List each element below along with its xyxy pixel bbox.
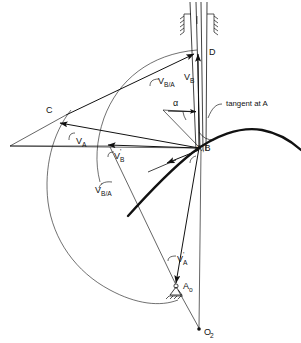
vector-v-b-over-a-prime <box>110 147 177 287</box>
guide-hatch-right <box>207 14 218 35</box>
guide-hatch-left <box>180 14 191 35</box>
vector-label-v-b-prime: V ' B <box>114 148 125 163</box>
svg-text:2: 2 <box>210 332 214 339</box>
svg-text:': ' <box>183 251 184 258</box>
leader-v-a <box>69 133 75 140</box>
leader-v-a-prime <box>168 256 176 261</box>
vector-label-v-b: V B <box>184 72 195 84</box>
svg-text:A: A <box>82 141 87 148</box>
point-label-D: D <box>209 47 216 57</box>
velocity-diagram: D C A,B A o O 2 V B V B/A V A V ' B V ' … <box>0 0 301 343</box>
point-label-O2: O 2 <box>204 327 214 339</box>
arc-from-C <box>47 110 178 304</box>
tangent-label: tangent at A <box>226 99 268 108</box>
svg-text:B: B <box>190 77 195 84</box>
angle-label-alpha: α <box>173 98 178 108</box>
point-label-AB: A,B <box>196 143 211 153</box>
svg-text:A: A <box>183 259 188 266</box>
svg-text:': ' <box>101 182 102 189</box>
leader-ab <box>190 156 196 163</box>
svg-text:B/A: B/A <box>164 81 175 88</box>
point-label-Ao: A o <box>183 281 193 293</box>
svg-text:o: o <box>189 286 193 293</box>
svg-text:': ' <box>120 148 121 155</box>
svg-text:B/A: B/A <box>101 190 112 197</box>
leader-tangent <box>208 104 222 118</box>
link-ab-to-o2 <box>199 150 201 328</box>
vector-label-v-b-over-a-prime: V ' B/A <box>95 182 112 197</box>
point-label-C: C <box>46 105 53 115</box>
svg-text:B: B <box>120 156 125 163</box>
vector-label-v-a-prime: V ' A <box>177 251 188 266</box>
o2-dot <box>197 327 201 331</box>
diagram-canvas: D C A,B A o O 2 V B V B/A V A V ' B V ' … <box>0 0 301 343</box>
pivot-ground-symbol <box>166 284 183 299</box>
angle-alpha-mark <box>163 110 199 147</box>
cam-profile-curve <box>128 129 301 216</box>
vector-v-b <box>198 54 199 148</box>
vector-label-v-b-over-a: V B/A <box>158 76 175 88</box>
pole-edge-c <box>10 115 66 146</box>
